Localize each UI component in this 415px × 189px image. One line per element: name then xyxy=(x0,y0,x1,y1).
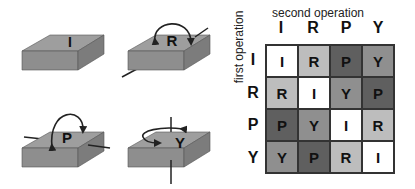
table-cell: I xyxy=(330,109,362,141)
table-cell: R xyxy=(266,77,298,109)
table-cell: Y xyxy=(266,141,298,173)
table-cell: I xyxy=(362,141,394,173)
table-cell: P xyxy=(266,109,298,141)
composition-table: I R P Y R I Y P P Y I R Y P R I xyxy=(265,44,395,174)
table-cell: Y xyxy=(298,109,330,141)
table-cell: R xyxy=(330,141,362,173)
table-cell: P xyxy=(298,141,330,173)
column-header: Y xyxy=(362,12,394,44)
block-label-i: I xyxy=(68,34,72,50)
column-header: R xyxy=(297,12,329,44)
table-cell: P xyxy=(330,45,362,77)
column-header: P xyxy=(330,12,362,44)
column-header: I xyxy=(265,12,297,44)
block-label-r: R xyxy=(167,32,178,49)
table-cell: P xyxy=(362,77,394,109)
table-cell: R xyxy=(298,45,330,77)
block-label-y: Y xyxy=(175,134,185,151)
block-roll: R xyxy=(122,24,210,77)
block-label-p: P xyxy=(62,129,72,146)
block-pitch: P xyxy=(22,114,110,167)
table-cell: Y xyxy=(362,45,394,77)
table-cell: Y xyxy=(330,77,362,109)
block-identity: I xyxy=(22,34,104,70)
table-cell: I xyxy=(298,77,330,109)
table-cell: I xyxy=(266,45,298,77)
table-cell: R xyxy=(362,109,394,141)
block-yaw: Y xyxy=(128,117,210,184)
